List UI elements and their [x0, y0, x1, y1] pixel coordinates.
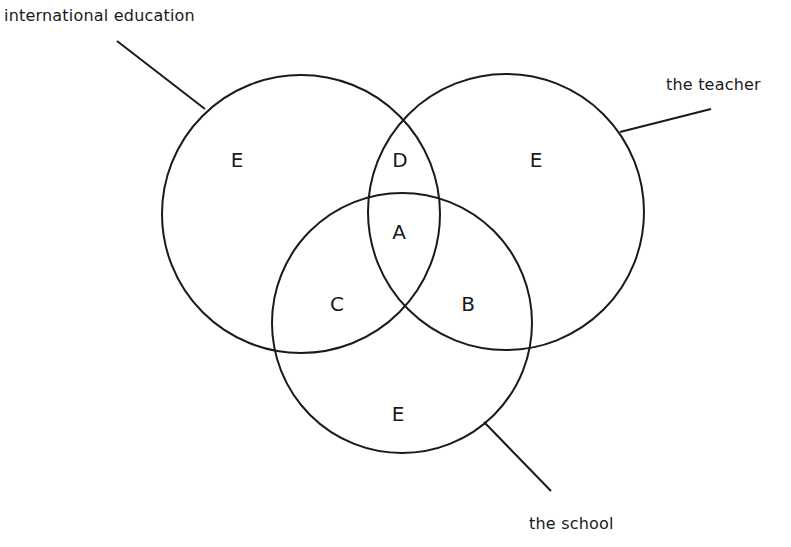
leader-line-teacher [620, 109, 711, 132]
region-b: B [461, 294, 475, 314]
region-e-right: E [530, 150, 543, 170]
region-c: C [330, 294, 344, 314]
circle-teacher [368, 74, 644, 350]
region-a: A [392, 222, 406, 242]
region-d: D [392, 150, 407, 170]
region-e-left: E [231, 150, 244, 170]
circle-international-education [162, 75, 440, 353]
leader-line-international-education [117, 41, 205, 109]
label-teacher: the teacher [666, 75, 761, 94]
label-school: the school [529, 514, 614, 533]
leader-line-school [484, 422, 551, 491]
label-international-education: international education [4, 6, 195, 25]
region-e-bottom: E [392, 404, 405, 424]
